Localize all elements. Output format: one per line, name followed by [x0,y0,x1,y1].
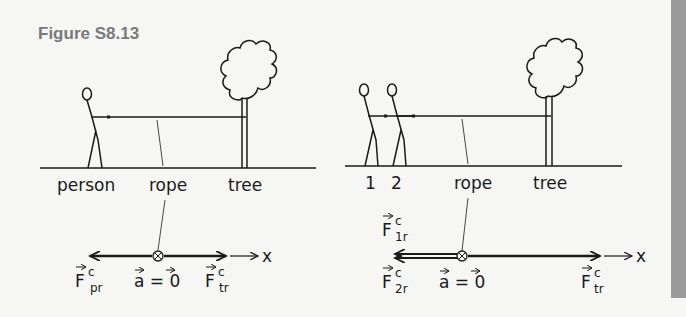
label-rope: rope [149,175,187,195]
x-axis-label-2: x [636,246,646,266]
label-person: person [57,175,115,195]
svg-text:pr: pr [90,281,103,295]
svg-text:c: c [594,266,601,280]
force-label-tr-2: F [581,272,591,292]
force-label-2r: F [382,272,392,292]
accel-label-2: a = 0 [439,272,485,292]
person-figure [83,88,111,168]
label-tree-2: tree [533,173,567,193]
label-rope-2: rope [454,173,492,193]
tree-figure [221,41,277,168]
label-tree: tree [228,175,262,195]
svg-text:2r: 2r [395,282,408,296]
right-panel: 1 2 rope tree x F c 1r F c 2r a = 0 F c … [345,39,646,296]
force-label-tr: F [205,271,215,291]
x-axis-label: x [262,246,272,266]
label-person-2: 2 [391,173,402,193]
tree-figure-2 [527,39,583,166]
svg-text:1r: 1r [395,230,408,244]
accel-label: a = 0 [134,271,180,291]
rope-dot-icon-2 [457,251,467,261]
rope-dot-icon [153,251,163,261]
left-panel: person rope tree x F c pr a = 0 F c tr [40,41,316,295]
diagram-canvas: person rope tree x F c pr a = 0 F c tr [0,0,686,317]
svg-text:tr: tr [594,282,604,296]
svg-text:c: c [395,266,402,280]
svg-text:c: c [218,265,225,279]
force-label-1r: F [382,220,392,240]
label-person-1: 1 [365,173,376,193]
svg-text:c: c [395,214,402,228]
svg-text:tr: tr [219,281,229,295]
person-1-figure [360,84,388,166]
force-label-pr: F [75,271,85,291]
svg-text:c: c [88,265,95,279]
person-2-figure [388,84,416,166]
